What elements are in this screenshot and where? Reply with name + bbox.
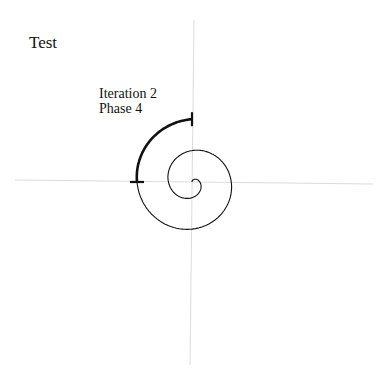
x-axis xyxy=(15,180,373,184)
spiral-diagram xyxy=(0,0,383,375)
highlight-arc xyxy=(137,119,192,182)
y-axis xyxy=(190,20,194,365)
spiral-path xyxy=(137,150,232,229)
